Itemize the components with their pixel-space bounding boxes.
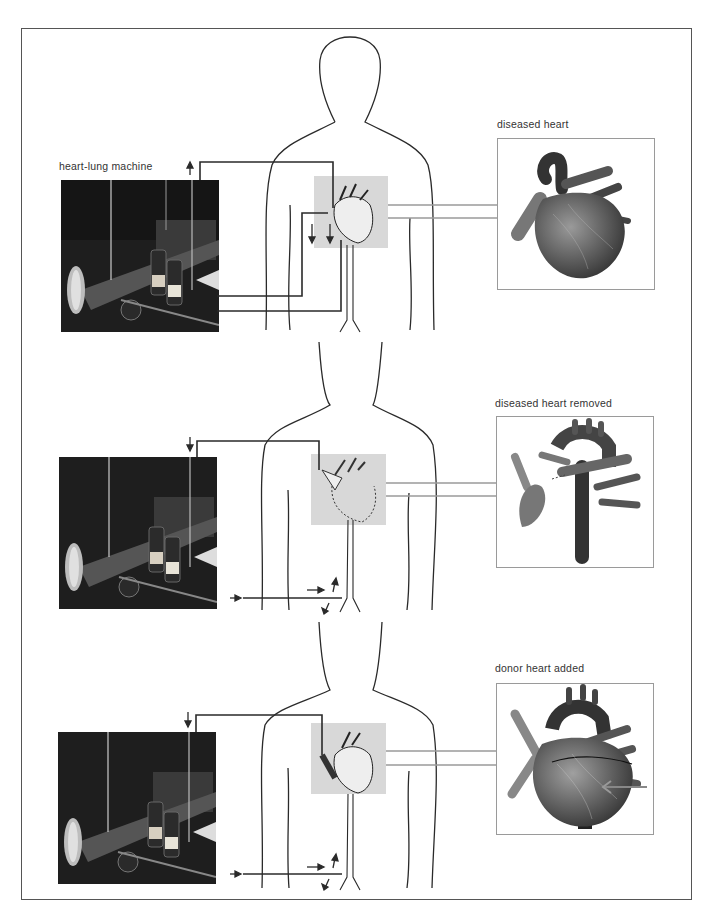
right-arrow-icon	[307, 587, 324, 593]
aorta-3	[340, 794, 360, 890]
right-arrow-icon	[307, 864, 324, 870]
down-arrow-icon	[185, 712, 191, 727]
up-arrow-icon	[332, 578, 338, 592]
down-left-arrow-icon	[322, 603, 329, 614]
down-arrow-icon	[187, 437, 193, 451]
right-arrow-icon	[230, 871, 241, 877]
down-left-arrow-icon	[322, 879, 329, 890]
aorta-1	[340, 245, 360, 332]
up-arrow-icon	[332, 854, 338, 868]
up-arrow-icon	[187, 162, 193, 175]
right-arrow-icon	[230, 595, 241, 601]
aorta-2	[340, 520, 360, 612]
panel-connectors	[386, 205, 497, 765]
body-and-tubing-layer	[0, 0, 719, 920]
